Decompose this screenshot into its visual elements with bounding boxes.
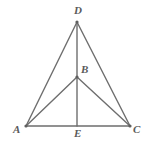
vertex-dot-C xyxy=(128,124,131,127)
vertex-label-B: B xyxy=(81,64,88,75)
vertex-label-C: C xyxy=(133,124,140,135)
vertex-dot-A xyxy=(24,124,27,127)
segments-group xyxy=(26,22,130,126)
segment-AD xyxy=(26,22,77,126)
vertex-label-D: D xyxy=(74,5,82,16)
geometry-figure: D B A C E xyxy=(0,0,155,150)
vertex-dot-B xyxy=(75,75,78,78)
vertex-label-E: E xyxy=(74,128,81,139)
vertex-label-A: A xyxy=(13,124,20,135)
segment-BC xyxy=(77,77,130,126)
vertex-dot-D xyxy=(75,20,78,23)
segment-AB xyxy=(26,77,77,126)
